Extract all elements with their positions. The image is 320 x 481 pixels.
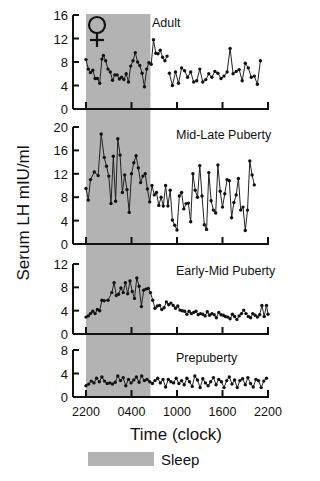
data-point bbox=[173, 224, 176, 227]
data-point bbox=[175, 377, 178, 380]
data-point bbox=[235, 318, 238, 321]
data-point bbox=[259, 59, 262, 62]
data-point bbox=[219, 190, 222, 193]
data-point bbox=[230, 382, 233, 385]
data-point bbox=[196, 196, 199, 199]
data-point bbox=[256, 83, 259, 86]
x-axis-label: Time (clock) bbox=[130, 425, 222, 444]
data-point bbox=[174, 70, 177, 73]
y-tick-label: 0 bbox=[61, 237, 68, 252]
data-point bbox=[241, 79, 244, 82]
data-point bbox=[228, 47, 231, 50]
y-tick-label: 20 bbox=[54, 120, 68, 135]
data-point bbox=[213, 313, 216, 316]
data-point bbox=[253, 183, 256, 186]
data-point bbox=[140, 305, 143, 308]
data-point bbox=[137, 166, 140, 169]
data-point bbox=[185, 377, 188, 380]
y-tick-label: 8 bbox=[61, 280, 68, 295]
data-point bbox=[241, 205, 244, 208]
y-tick-label: 0 bbox=[61, 390, 68, 405]
data-point bbox=[244, 62, 247, 65]
data-point bbox=[191, 385, 194, 388]
data-point bbox=[150, 63, 153, 66]
data-point bbox=[110, 291, 113, 294]
data-point bbox=[206, 384, 209, 387]
data-point bbox=[209, 199, 212, 202]
data-point bbox=[250, 173, 253, 176]
data-point bbox=[182, 207, 185, 210]
data-point bbox=[192, 80, 195, 83]
data-point bbox=[127, 80, 130, 83]
data-point bbox=[195, 79, 198, 82]
data-point bbox=[106, 299, 109, 302]
data-point bbox=[132, 378, 135, 381]
data-point bbox=[116, 374, 119, 377]
data-point bbox=[147, 287, 150, 290]
data-point bbox=[235, 70, 238, 73]
data-point bbox=[215, 316, 218, 319]
data-point bbox=[92, 381, 95, 384]
data-point bbox=[210, 76, 213, 79]
data-point bbox=[214, 211, 217, 214]
data-point bbox=[183, 310, 186, 313]
data-point bbox=[112, 281, 115, 284]
data-point bbox=[104, 59, 107, 62]
data-point bbox=[122, 78, 125, 81]
data-point bbox=[250, 76, 253, 79]
data-point bbox=[207, 171, 210, 174]
data-point bbox=[111, 79, 114, 82]
data-point bbox=[228, 375, 231, 378]
y-tick-label: 16 bbox=[54, 143, 68, 158]
data-point bbox=[131, 290, 134, 293]
data-point bbox=[103, 156, 106, 159]
data-point bbox=[117, 293, 120, 296]
data-point bbox=[180, 191, 183, 194]
data-point bbox=[180, 66, 183, 69]
data-point bbox=[169, 189, 172, 192]
data-point bbox=[188, 380, 191, 383]
x-tick-label: 0400 bbox=[118, 405, 146, 419]
data-point bbox=[131, 59, 134, 62]
data-point bbox=[177, 382, 180, 385]
data-point bbox=[172, 381, 175, 384]
data-point bbox=[87, 382, 90, 385]
y-tick-label: 12 bbox=[54, 32, 68, 47]
data-point bbox=[222, 74, 225, 77]
data-point bbox=[237, 177, 240, 180]
data-point bbox=[115, 73, 118, 76]
data-point bbox=[159, 196, 162, 199]
data-point bbox=[128, 211, 131, 214]
y-tick-label: 4 bbox=[61, 214, 68, 229]
data-point bbox=[165, 54, 168, 57]
data-point bbox=[158, 304, 161, 307]
data-point bbox=[265, 377, 268, 380]
x-tick-label: 1600 bbox=[209, 405, 237, 419]
data-point bbox=[103, 379, 106, 382]
data-point bbox=[106, 67, 109, 70]
data-point bbox=[127, 378, 130, 381]
legend-sleep-swatch bbox=[88, 452, 154, 466]
data-point bbox=[146, 187, 149, 190]
data-point bbox=[164, 184, 167, 187]
data-point bbox=[201, 377, 204, 380]
data-point bbox=[242, 308, 245, 311]
data-point bbox=[231, 72, 234, 75]
data-point bbox=[87, 67, 90, 70]
data-point bbox=[249, 316, 252, 319]
data-point bbox=[125, 72, 128, 75]
data-point bbox=[212, 208, 215, 211]
y-tick-label: 4 bbox=[61, 304, 68, 319]
y-tick-label: 8 bbox=[61, 343, 68, 358]
data-point bbox=[223, 192, 226, 195]
data-point bbox=[241, 377, 244, 380]
data-point bbox=[137, 381, 140, 384]
data-point bbox=[177, 82, 180, 85]
data-point bbox=[162, 306, 165, 309]
data-point bbox=[148, 200, 151, 203]
data-point bbox=[220, 380, 223, 383]
y-tick-label: 16 bbox=[54, 8, 68, 23]
data-point bbox=[263, 315, 266, 318]
data-point bbox=[187, 201, 190, 204]
data-point bbox=[151, 299, 154, 302]
